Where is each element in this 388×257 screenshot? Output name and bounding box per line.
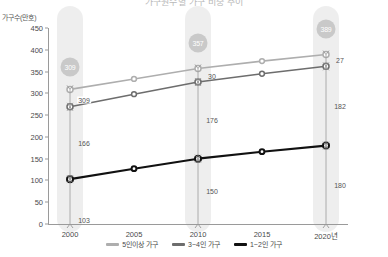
segment-value-label: 166 — [78, 139, 90, 146]
measure-arrow — [195, 78, 201, 163]
data-point-marker — [132, 77, 137, 82]
y-tick-label: 400 — [30, 45, 43, 54]
segment-value-label: 182 — [334, 102, 346, 109]
data-point-marker — [260, 59, 265, 64]
segment-value-label: 309 — [77, 97, 91, 104]
legend-swatch-icon — [106, 243, 119, 246]
legend-label: 5인이상 가구 — [122, 239, 158, 249]
y-tick-label: 350 — [30, 67, 43, 76]
data-point-marker — [260, 149, 265, 154]
series-lines — [48, 28, 348, 224]
segment-value-label: 150 — [206, 188, 218, 195]
legend-swatch-icon — [172, 243, 185, 246]
y-tick-label: 150 — [30, 154, 43, 163]
plot-area: 050100150200250300350400450 200020052010… — [48, 28, 348, 224]
total-bubble: 357 — [189, 33, 208, 52]
chart-container: 가구원수별 가구 비중 추이 가구수(만호) 05010015020025030… — [0, 0, 388, 257]
measure-arrow — [323, 62, 329, 149]
segment-value-label: 27 — [336, 57, 344, 64]
y-axis-label: 가구수(만호) — [2, 12, 37, 22]
y-tick-label: 0 — [39, 220, 43, 229]
total-bubble: 389 — [317, 19, 336, 38]
y-tick-label: 50 — [35, 198, 43, 207]
y-tick-label: 200 — [30, 132, 43, 141]
segment-value-label: 180 — [334, 181, 346, 188]
measure-arrow — [323, 142, 329, 228]
data-point-marker — [260, 71, 265, 76]
legend-swatch-icon — [234, 243, 247, 246]
measure-arrow — [67, 103, 73, 183]
y-tick-label: 250 — [30, 111, 43, 120]
y-tick-label: 300 — [30, 89, 43, 98]
x-tick-label: 2005 — [126, 230, 143, 239]
measure-arrow — [67, 175, 73, 228]
measure-arrow — [195, 155, 201, 228]
legend-label: 1~2인 가구 — [250, 239, 282, 249]
x-tick-label: 2000 — [62, 230, 79, 239]
x-tick-label: 2015 — [254, 230, 271, 239]
segment-value-label: 30 — [208, 73, 216, 80]
chart-legend: 5인이상 가구3~4인 가구1~2인 가구 — [0, 239, 388, 249]
y-tick-label: 100 — [30, 176, 43, 185]
segment-value-label: 176 — [206, 117, 218, 124]
total-bubble: 309 — [61, 58, 80, 77]
x-tick-label: 2010 — [190, 230, 207, 239]
legend-item[interactable]: 3~4인 가구 — [172, 239, 220, 249]
legend-item[interactable]: 5인이상 가구 — [106, 239, 158, 249]
legend-label: 3~4인 가구 — [188, 239, 220, 249]
y-tick-label: 450 — [30, 24, 43, 33]
data-point-marker — [132, 92, 137, 97]
legend-item[interactable]: 1~2인 가구 — [234, 239, 282, 249]
data-point-marker — [132, 166, 137, 171]
segment-value-label: 103 — [78, 216, 90, 223]
